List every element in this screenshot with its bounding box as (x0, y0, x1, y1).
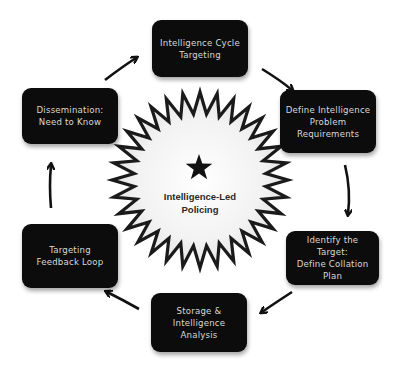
arrow-right-down (345, 165, 349, 214)
step-box-dissemination-need-to-know: Dissemination: Need to Know (22, 88, 118, 144)
step-label: Define Intelligence Problem Requirements (286, 104, 371, 140)
arrow-left-to-top (105, 58, 136, 80)
step-box-storage-intelligence-analysis: Storage & Intelligence Analysis (151, 293, 247, 352)
starburst (112, 92, 288, 268)
step-box-define-intelligence-problem: Define Intelligence Problem Requirements (280, 90, 376, 153)
step-box-identify-the-target: Identify the Target: Define Collation Pl… (286, 231, 379, 285)
step-box-intelligence-cycle-targeting: Intelligence Cycle Targeting (152, 20, 248, 77)
arrow-left-up (50, 165, 51, 208)
step-label: Intelligence Cycle Targeting (160, 37, 240, 61)
arrow-top-to-right (262, 69, 292, 90)
step-label: Targeting Feedback Loop (37, 244, 104, 268)
step-label: Dissemination: Need to Know (37, 104, 104, 128)
arrow-right-to-bottom (262, 292, 292, 312)
center-label: Intelligence-Led Policing (140, 190, 260, 216)
step-label: Identify the Target: Define Collation Pl… (290, 234, 375, 282)
arrow-bottom-to-left (107, 292, 139, 309)
step-label: Storage & Intelligence Analysis (173, 305, 225, 341)
step-box-targeting-feedback-loop: Targeting Feedback Loop (22, 224, 118, 288)
